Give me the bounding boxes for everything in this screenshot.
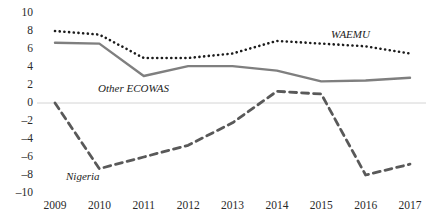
y-tick-label: –2 bbox=[3, 115, 33, 126]
y-tick-label: –10 bbox=[3, 187, 33, 198]
x-tick-label: 2012 bbox=[166, 199, 210, 211]
x-tick-label: 2009 bbox=[33, 199, 77, 211]
y-tick-label: 4 bbox=[3, 61, 33, 72]
y-tick-label: 2 bbox=[3, 79, 33, 90]
series-label-other-ecowas: Other ECOWAS bbox=[98, 82, 169, 94]
series-label-nigeria: Nigeria bbox=[66, 170, 100, 182]
x-tick-label: 2013 bbox=[211, 199, 255, 211]
x-tick-label: 2010 bbox=[77, 199, 121, 211]
x-tick-label: 2016 bbox=[344, 199, 388, 211]
x-tick-label: 2011 bbox=[122, 199, 166, 211]
chart-figure: 1086420–2–4–6–8–10 200920102011201220132… bbox=[0, 0, 430, 220]
y-tick-label: 0 bbox=[3, 97, 33, 108]
y-axis-ticks: 1086420–2–4–6–8–10 bbox=[0, 0, 33, 220]
y-tick-label: –8 bbox=[3, 169, 33, 180]
y-tick-label: 8 bbox=[3, 25, 33, 36]
x-tick-label: 2017 bbox=[388, 199, 430, 211]
x-tick-label: 2015 bbox=[299, 199, 343, 211]
y-tick-label: –6 bbox=[3, 151, 33, 162]
series-label-waemu: WAEMU bbox=[331, 28, 370, 40]
y-tick-label: 10 bbox=[3, 7, 33, 18]
y-tick-label: 6 bbox=[3, 43, 33, 54]
y-tick-label: –4 bbox=[3, 133, 33, 144]
x-tick-label: 2014 bbox=[255, 199, 299, 211]
